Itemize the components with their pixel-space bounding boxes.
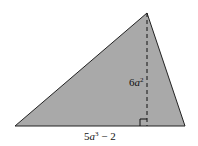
base-label: 5a3 − 2 [84, 130, 116, 142]
triangle-diagram: 6a2 5a3 − 2 [0, 0, 198, 146]
triangle [15, 13, 185, 126]
